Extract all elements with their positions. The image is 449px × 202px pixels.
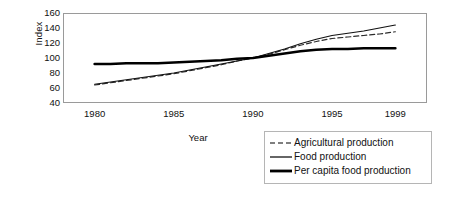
series-line bbox=[95, 25, 396, 84]
x-axis-tick-label: 1995 bbox=[312, 108, 352, 119]
legend-line-swatch-icon bbox=[270, 151, 292, 163]
x-axis-tick-label: 1980 bbox=[75, 108, 115, 119]
legend-item[interactable]: Agricultural production bbox=[270, 136, 426, 150]
plot-series-layer bbox=[63, 13, 427, 103]
legend-item[interactable]: Per capita food production bbox=[270, 164, 426, 178]
legend-line-swatch-icon bbox=[270, 165, 292, 177]
y-axis-tick-label: 100 bbox=[34, 53, 60, 63]
y-axis-tick-label: 120 bbox=[34, 38, 60, 48]
y-axis-tick-labels: 160140120100806040 bbox=[31, 0, 60, 202]
y-axis-tick-label: 40 bbox=[34, 98, 60, 108]
legend-item[interactable]: Food production bbox=[270, 150, 426, 164]
x-axis-tick-label: 1985 bbox=[154, 108, 194, 119]
legend-line-swatch-icon bbox=[270, 137, 292, 149]
legend-item-label: Per capita food production bbox=[294, 165, 411, 177]
y-axis-tick-label: 80 bbox=[34, 68, 60, 78]
chart-legend: Agricultural productionFood productionPe… bbox=[264, 131, 432, 184]
legend-item-label: Food production bbox=[294, 151, 366, 163]
series-line bbox=[95, 48, 396, 64]
y-axis-tick-label: 160 bbox=[34, 8, 60, 18]
legend-item-label: Agricultural production bbox=[294, 137, 394, 149]
y-axis-tick-label: 140 bbox=[34, 23, 60, 33]
line-chart: Index 160140120100806040 198019851990199… bbox=[0, 0, 449, 202]
x-axis-tick-label: 1990 bbox=[233, 108, 273, 119]
x-axis-title: Year bbox=[168, 132, 228, 143]
x-axis-tick-label: 1999 bbox=[375, 108, 415, 119]
y-axis-tick-label: 60 bbox=[34, 83, 60, 93]
